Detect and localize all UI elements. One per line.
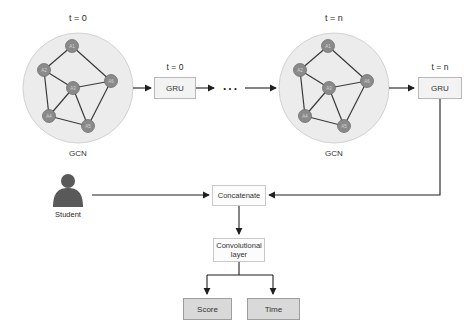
- graph-node-label: A6: [364, 79, 370, 84]
- gcn-tn-caption: GCN: [310, 148, 358, 160]
- gru-tn-label: GRU: [431, 84, 449, 93]
- student-label: Student: [42, 209, 94, 221]
- graph-node-label: A2: [297, 68, 303, 73]
- ellipsis-label: ...: [216, 80, 246, 93]
- gcn-graph-tn: A1 A2 A3 A4 A5 A6: [279, 33, 389, 143]
- student-body: [53, 188, 83, 207]
- gru-t0-title: t = 0: [152, 61, 198, 73]
- convolutional-layer-label: Convolutional layer: [214, 241, 264, 259]
- gru-t0-box: GRU: [154, 77, 196, 99]
- gru-tn-box: GRU: [418, 77, 462, 99]
- gru-tn-title: t = n: [418, 61, 462, 73]
- concatenate-label: Concatenate: [218, 191, 261, 200]
- graph-node-label: A4: [46, 114, 52, 119]
- gcn-t0-caption: GCN: [54, 148, 102, 160]
- graph-node-label: A2: [41, 68, 47, 73]
- graph-node-label: A3: [326, 86, 332, 91]
- student-head: [61, 174, 75, 188]
- score-box: Score: [183, 298, 232, 320]
- graph-node-label: A1: [325, 44, 331, 49]
- diagram-graphics: A1 A2 A3 A4 A5 A6: [0, 0, 471, 331]
- graph-node-label: A4: [302, 114, 308, 119]
- gru-t0-label: GRU: [166, 84, 184, 93]
- time-box: Time: [247, 298, 300, 320]
- diagram-canvas: A1 A2 A3 A4 A5 A6: [0, 0, 471, 331]
- graph-node-label: A3: [70, 86, 76, 91]
- graph-node-label: A1: [69, 44, 75, 49]
- convolutional-layer-box: Convolutional layer: [213, 238, 265, 262]
- graph-node-label: A5: [341, 124, 347, 129]
- time-label: Time: [265, 305, 282, 314]
- graph-node-label: A5: [85, 124, 91, 129]
- gcn-t0-title: t = 0: [54, 12, 102, 24]
- connector-conv-to-outputs: [207, 262, 273, 294]
- score-label: Score: [197, 305, 218, 314]
- gcn-graph-t0: A1 A2 A3 A4 A5 A6: [23, 33, 133, 143]
- student-icon: [53, 174, 83, 207]
- concatenate-box: Concatenate: [212, 185, 266, 206]
- graph-node-label: A6: [108, 79, 114, 84]
- gcn-tn-title: t = n: [310, 12, 358, 24]
